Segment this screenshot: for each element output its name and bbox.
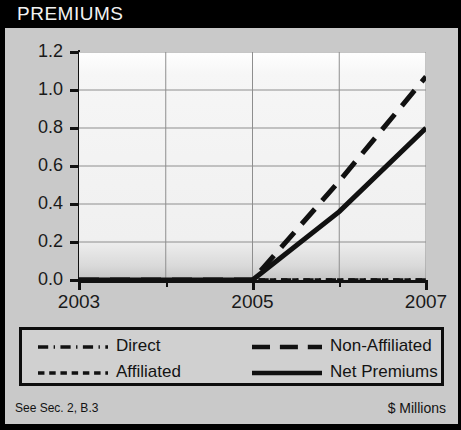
plot-lines bbox=[79, 52, 426, 280]
y-axis-tick-label: 0.0 bbox=[38, 269, 63, 290]
legend-label: Direct bbox=[116, 336, 160, 356]
x-axis-tick-major bbox=[425, 281, 428, 290]
x-axis-tick-label: 2005 bbox=[231, 291, 273, 313]
footer-source-note: See Sec. 2, B.3 bbox=[15, 401, 98, 415]
y-axis-tick-label: 1.2 bbox=[38, 41, 63, 62]
legend-swatch-short-dash-icon bbox=[36, 360, 110, 386]
legend-label: Affiliated bbox=[116, 362, 181, 382]
x-axis-tick-label: 2003 bbox=[58, 291, 100, 313]
x-axis-tick-major bbox=[252, 281, 255, 290]
legend-label: Net Premiums bbox=[330, 362, 438, 382]
legend: DirectNon-AffiliatedAffiliatedNet Premiu… bbox=[19, 327, 444, 386]
chart-body: 0.00.20.40.60.81.01.2 200320052007 Direc… bbox=[5, 28, 458, 396]
footer: See Sec. 2, B.3 $ Millions bbox=[5, 396, 458, 424]
legend-swatch-dash-dot-icon bbox=[36, 334, 110, 360]
y-axis-tick-label: 1.0 bbox=[38, 79, 63, 100]
legend-swatch-solid-icon bbox=[250, 360, 324, 386]
x-axis-tick-minor bbox=[166, 281, 168, 287]
x-axis-tick-minor bbox=[339, 281, 341, 287]
legend-swatch-long-dash-icon bbox=[250, 334, 324, 360]
y-axis-tick-label: 0.6 bbox=[38, 155, 63, 176]
y-axis-tick-label: 0.8 bbox=[38, 117, 63, 138]
legend-label: Non-Affiliated bbox=[330, 336, 432, 356]
gridlines bbox=[79, 52, 426, 280]
chart-panel: PREMIUMS 0.00.20.40.60.81.01.2 200320052… bbox=[0, 0, 461, 430]
title-bar: PREMIUMS bbox=[5, 0, 458, 28]
x-axis-tick-label: 2007 bbox=[405, 291, 447, 313]
footer-units-note: $ Millions bbox=[388, 400, 446, 416]
plot-area bbox=[79, 52, 426, 280]
page-title: PREMIUMS bbox=[17, 3, 123, 25]
y-axis-tick-label: 0.4 bbox=[38, 193, 63, 214]
x-axis-tick-major bbox=[78, 281, 81, 290]
y-axis-tick-label: 0.2 bbox=[38, 231, 63, 252]
